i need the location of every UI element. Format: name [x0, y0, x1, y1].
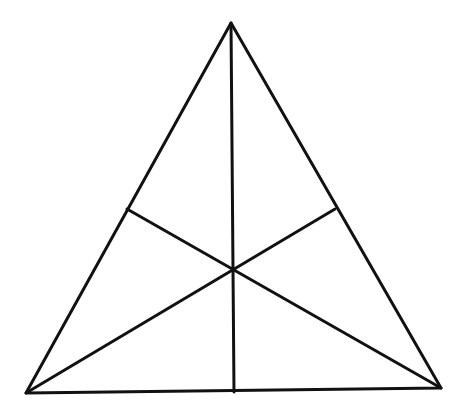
median-apex-to-base — [231, 23, 234, 392]
diagram-canvas — [0, 0, 466, 410]
median-bottom-right-to-left-side — [127, 209, 441, 388]
triangle-medians-diagram — [0, 0, 466, 410]
